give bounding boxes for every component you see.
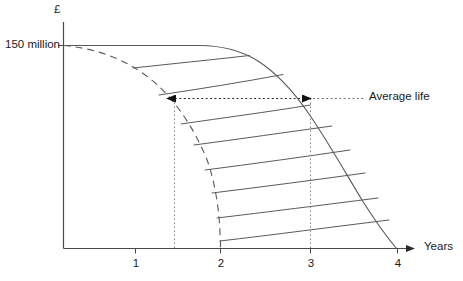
band-line-5 [205, 150, 350, 170]
average-life-label: Average life [369, 91, 430, 103]
band-line-2 [159, 75, 283, 96]
x-tick-label-1: 1 [126, 258, 146, 270]
vertical-guides [175, 99, 311, 249]
x-tick-label-3: 3 [301, 258, 321, 270]
y-axis-currency-label: £ [54, 4, 60, 16]
outer-amortisation-curve [64, 46, 397, 249]
diagram-canvas [0, 0, 463, 281]
x-axis-ticks [58, 46, 398, 254]
band-line-1 [133, 56, 250, 69]
band-line-7 [217, 198, 378, 218]
y-axis-value-label: 150 million [5, 39, 60, 51]
axes-group [64, 22, 415, 249]
inner-amortisation-curve [64, 46, 221, 249]
band-line-3 [181, 105, 311, 124]
amortisation-diagram: £ 150 million Years Average life 1 2 3 4 [0, 0, 463, 281]
amortisation-band-lines [133, 56, 389, 242]
band-line-8 [220, 220, 389, 241]
x-tick-label-2: 2 [211, 258, 231, 270]
x-axis-title: Years [424, 241, 453, 253]
band-line-6 [212, 173, 365, 193]
x-tick-label-4: 4 [388, 258, 408, 270]
band-line-4 [194, 126, 332, 145]
